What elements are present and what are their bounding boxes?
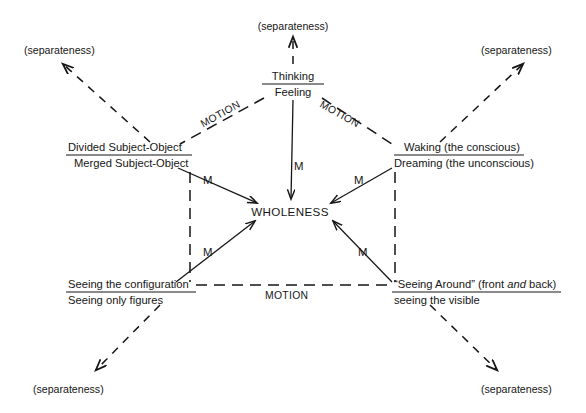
wholeness-diagram-svg: Thinking Feeling Divided Subject-Object … (0, 0, 586, 413)
node-seeing-configuration[interactable]: Seeing the configuration Seeing only fig… (66, 278, 196, 306)
motion-edge-thinking-subject (180, 98, 264, 144)
separateness-label-bottom-right: (separateness) (481, 383, 552, 395)
separateness-arrow-bottom-left (96, 305, 160, 370)
node-subject-object[interactable]: Divided Subject-Object Merged Subject-Ob… (66, 141, 192, 169)
node-thinking-feeling[interactable]: Thinking Feeling (262, 70, 324, 98)
node-subject-object-top: Divided Subject-Object (68, 141, 183, 153)
motion-label-upper-left: MOTION (199, 99, 242, 130)
node-seeing-around-top: “Seeing Around” (front and back) (394, 278, 557, 290)
m-label-top: M (294, 160, 304, 172)
node-waking-dreaming-bottom: Dreaming (the unconscious) (394, 157, 534, 169)
node-thinking-feeling-bottom: Feeling (275, 86, 312, 98)
center-label-wholeness: WHOLENESS (251, 205, 329, 218)
node-subject-object-bottom: Merged Subject-Object (74, 157, 189, 169)
separateness-arrow-top-right (440, 64, 523, 142)
m-label-upper-left: M (203, 174, 213, 186)
separateness-label-bottom-left: (separateness) (33, 383, 104, 395)
separateness-label-top-right: (separateness) (481, 44, 552, 56)
separateness-arrow-bottom-right (430, 305, 497, 370)
node-seeing-around-top-post: back) (526, 278, 557, 290)
separateness-label-top: (separateness) (258, 20, 329, 32)
m-label-lower-left: M (203, 246, 213, 258)
m-label-lower-right: M (358, 246, 368, 258)
node-seeing-around-bottom: seeing the visible (394, 294, 480, 306)
node-thinking-feeling-top: Thinking (272, 70, 314, 82)
node-seeing-configuration-bottom: Seeing only figures (68, 294, 164, 306)
diagram-canvas: Thinking Feeling Divided Subject-Object … (0, 0, 586, 413)
motion-label-upper-right: MOTION (318, 99, 361, 130)
node-seeing-around-top-italic: and (507, 278, 526, 290)
motion-label-bottom: MOTION (265, 290, 308, 301)
node-waking-dreaming-top: Waking (the conscious) (404, 141, 520, 153)
wholeness-arrow-from-thinking (291, 100, 293, 199)
separateness-label-top-left: (separateness) (24, 44, 95, 56)
node-seeing-around[interactable]: “Seeing Around” (front and back) seeing … (392, 278, 561, 306)
node-waking-dreaming[interactable]: Waking (the conscious) Dreaming (the unc… (394, 141, 534, 169)
m-label-upper-right: M (354, 174, 364, 186)
wholeness-arrow-from-seeing-configuration (176, 221, 255, 282)
separateness-arrow-top-left (63, 64, 150, 142)
node-seeing-configuration-top: Seeing the configuration (68, 278, 189, 290)
node-seeing-around-top-pre: “Seeing Around” (front (394, 278, 507, 290)
